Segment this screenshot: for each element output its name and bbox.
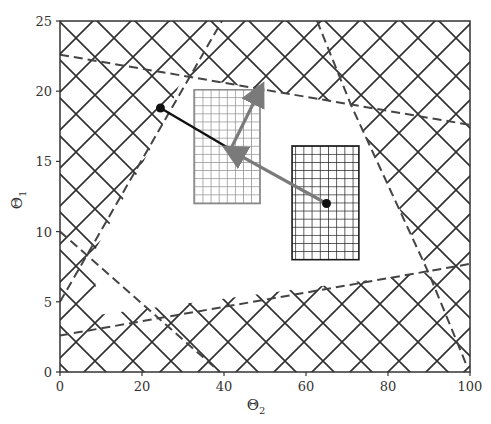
x-tick-label: 80 [380, 379, 397, 394]
y-tick-label: 10 [35, 225, 52, 240]
x-axis-ticks: 020406080100 [56, 372, 483, 394]
x-axis-label: Θ2 [247, 396, 266, 416]
gray-end-point [256, 85, 265, 94]
y-tick-label: 20 [35, 84, 52, 99]
y-tick-label: 15 [35, 154, 52, 169]
black-start-point [156, 104, 165, 113]
y-tick-label: 25 [35, 14, 52, 29]
x-tick-label: 100 [458, 379, 483, 394]
x-tick-label: 40 [216, 379, 233, 394]
black-end-point [322, 199, 331, 208]
y-tick-label: 5 [44, 295, 52, 310]
y-tick-label: 0 [44, 365, 52, 380]
y-axis-ticks: 0510152025 [35, 14, 60, 380]
x-tick-label: 60 [298, 379, 315, 394]
chart: 020406080100 0510152025 Θ2 Θ1 [0, 0, 491, 424]
y-axis-label: Θ1 [8, 191, 28, 210]
plot-area [60, 21, 470, 372]
x-tick-label: 0 [56, 379, 64, 394]
x-tick-label: 20 [134, 379, 151, 394]
